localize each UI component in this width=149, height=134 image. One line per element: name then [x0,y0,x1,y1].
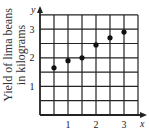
y-axis-arrow-icon [37,6,43,13]
x-tick-label: 3 [122,119,127,130]
data-point [121,29,126,34]
y-tick-label: 1 [30,81,35,92]
y-axis-letter: y [30,4,36,15]
data-points [51,29,126,70]
data-point [107,35,112,40]
y-tick-label: 2 [30,52,35,63]
tick-labels: yx123123 [30,4,146,130]
scatter-chart: yx123123 [0,0,149,134]
data-point [93,42,98,47]
data-point [65,58,70,63]
x-axis-letter: x [139,118,145,129]
data-point [51,65,56,70]
x-tick-label: 2 [94,119,99,130]
x-tick-label: 1 [66,119,71,130]
y-tick-label: 3 [30,24,35,35]
data-point [79,55,84,60]
